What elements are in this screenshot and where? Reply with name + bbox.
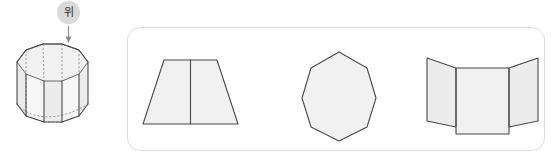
arrow-down-icon [66, 26, 72, 43]
options-panel [127, 27, 545, 151]
direction-and-solid-group: 위 [0, 0, 140, 167]
option-regular-octagon[interactable] [302, 52, 376, 141]
octagonal-prism [17, 44, 88, 122]
option-trapezoid-with-center-line[interactable] [143, 60, 238, 124]
figure-canvas: 위 [0, 0, 557, 167]
option-three-panel-folded-screen[interactable] [427, 58, 538, 134]
options-shapes [128, 28, 544, 150]
solid-drawing [0, 0, 140, 167]
